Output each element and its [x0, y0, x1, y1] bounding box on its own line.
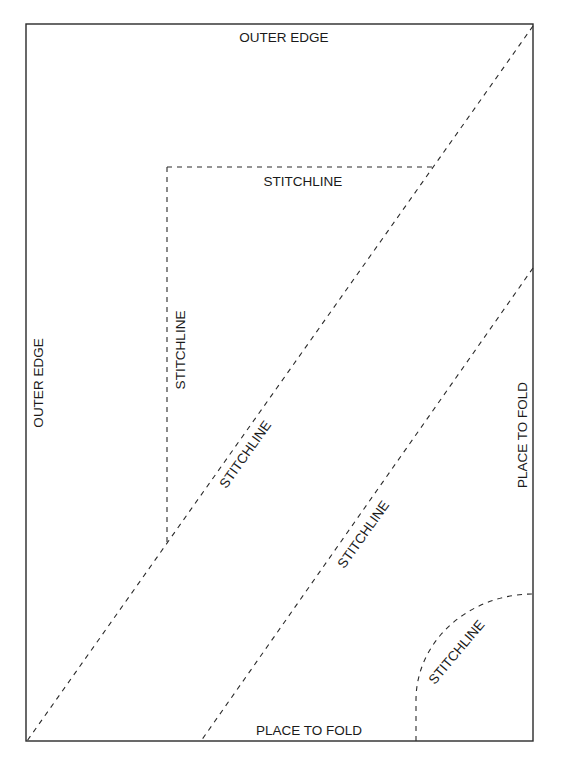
- diagonal-stitchline-2: [201, 268, 533, 741]
- bottom-place-to-fold-label: PLACE TO FOLD: [256, 723, 362, 738]
- left-outer-edge-label: OUTER EDGE: [31, 338, 46, 427]
- right-place-to-fold-label: PLACE TO FOLD: [515, 382, 530, 488]
- box-left-stitchline-label: STITCHLINE: [173, 311, 188, 390]
- pattern-outline: [26, 24, 533, 741]
- pattern-diagram: OUTER EDGE OUTER EDGE STITCHLINE STITCHL…: [0, 0, 562, 768]
- diagonal-stitchline-1: [27, 26, 533, 741]
- curve-stitchline-label: STITCHLINE: [425, 617, 487, 687]
- diagonal-1-stitchline-label: STITCHLINE: [216, 418, 274, 491]
- top-outer-edge-label: OUTER EDGE: [239, 30, 328, 45]
- box-top-stitchline-label: STITCHLINE: [264, 174, 343, 189]
